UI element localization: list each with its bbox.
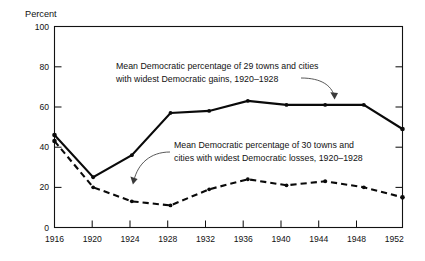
data-point xyxy=(285,183,289,187)
y-tick-label: 40 xyxy=(39,142,49,152)
data-point xyxy=(207,109,211,113)
data-point xyxy=(169,203,173,207)
data-point xyxy=(246,177,250,181)
data-point xyxy=(323,179,327,183)
y-axis-title: Percent xyxy=(25,9,57,19)
data-point xyxy=(169,111,173,115)
data-point xyxy=(246,99,250,103)
data-point xyxy=(323,103,327,107)
x-tick-label: 1952 xyxy=(385,234,404,244)
y-tick-label: 80 xyxy=(39,62,49,72)
x-tick-label: 1924 xyxy=(120,234,139,244)
data-point xyxy=(400,127,405,132)
x-tick-label: 1932 xyxy=(196,234,215,244)
x-tick-label: 1916 xyxy=(45,234,64,244)
x-tick-label: 1940 xyxy=(271,234,290,244)
x-tick-label: 1920 xyxy=(83,234,102,244)
data-point xyxy=(285,103,289,107)
chart-figure: Percent 0 20 40 60 80 100 xyxy=(0,0,425,261)
chart-background xyxy=(0,0,425,261)
data-point xyxy=(52,139,57,144)
annotation-losses-line1: Mean Democratic percentage of 30 towns a… xyxy=(174,140,354,150)
y-tick-label: 100 xyxy=(35,22,50,32)
data-point xyxy=(362,185,366,189)
data-point xyxy=(400,195,405,200)
annotation-gains-line2: with widest Democratic gains, 1920–1928 xyxy=(115,74,278,84)
y-tick-label: 60 xyxy=(39,102,49,112)
data-point xyxy=(130,153,134,157)
data-point xyxy=(130,199,134,203)
data-point xyxy=(362,103,366,107)
x-tick-label: 1928 xyxy=(158,234,177,244)
annotation-losses-line2: cities with widest Democratic losses, 19… xyxy=(174,153,363,163)
y-tick-label: 0 xyxy=(44,223,49,233)
y-tick-label: 20 xyxy=(39,182,49,192)
data-point xyxy=(207,187,211,191)
data-point xyxy=(91,185,95,189)
annotation-gains-line1: Mean Democratic percentage of 29 towns a… xyxy=(116,61,319,71)
data-point xyxy=(91,175,95,179)
x-tick-label: 1936 xyxy=(234,234,253,244)
x-tick-label: 1948 xyxy=(347,234,366,244)
line-chart: Percent 0 20 40 60 80 100 xyxy=(0,0,425,261)
data-point xyxy=(52,133,57,138)
x-tick-label: 1944 xyxy=(309,234,328,244)
